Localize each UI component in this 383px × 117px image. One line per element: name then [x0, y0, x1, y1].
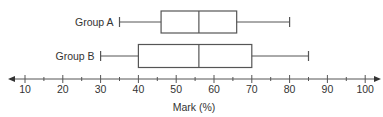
box-group-a: Group A [75, 11, 290, 33]
tick-label: 40 [133, 83, 145, 95]
box-plot-chart: Group AGroup B 102030405060708090100 Mar… [0, 0, 383, 117]
tick-label: 50 [170, 83, 182, 95]
group-label: Group B [55, 50, 94, 62]
tick-label: 60 [208, 83, 220, 95]
iqr-box [138, 45, 251, 68]
box-group-b: Group B [55, 45, 308, 68]
tick-label: 70 [246, 83, 258, 95]
tick-label: 30 [95, 83, 107, 95]
group-label: Group A [75, 16, 114, 28]
tick-label: 80 [284, 83, 296, 95]
arrow-right-icon [374, 76, 381, 82]
x-axis: 102030405060708090100 [8, 75, 381, 95]
tick-label: 10 [19, 83, 31, 95]
tick-label: 20 [57, 83, 69, 95]
tick-label: 90 [322, 83, 334, 95]
arrow-left-icon [8, 76, 15, 82]
x-axis-label: Mark (%) [173, 101, 216, 113]
tick-label: 100 [356, 83, 374, 95]
box-plot-boxes: Group AGroup B [55, 11, 308, 68]
